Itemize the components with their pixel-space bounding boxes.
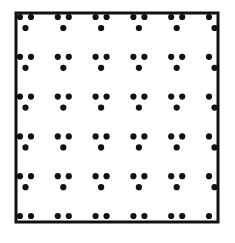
dot-icon (28, 173, 34, 179)
dot-icon (168, 173, 174, 179)
dot-icon (130, 133, 136, 139)
dot-icon (130, 54, 136, 60)
dot-icon (28, 54, 34, 60)
dot-icon (60, 105, 66, 111)
dot-icon (60, 25, 66, 31)
dot-icon (66, 133, 72, 139)
dot-icon (17, 213, 23, 219)
dot-icon (179, 54, 185, 60)
dot-icon (28, 94, 34, 100)
dot-icon (60, 184, 66, 190)
dot-icon (130, 94, 136, 100)
dot-icon (104, 94, 110, 100)
dot-icon (179, 213, 185, 219)
dot-icon (206, 133, 212, 139)
dot-icon (98, 25, 104, 31)
dot-icon (22, 144, 28, 150)
dot-icon (141, 173, 147, 179)
dot-icon (93, 14, 99, 20)
dot-icon (141, 94, 147, 100)
dot-icon (174, 184, 180, 190)
dot-icon (174, 105, 180, 111)
dot-icon (141, 133, 147, 139)
dot-icon (206, 54, 212, 60)
dot-icon (66, 14, 72, 20)
dot-icon (66, 54, 72, 60)
dot-icon (141, 14, 147, 20)
dot-icon (98, 144, 104, 150)
dot-icon (130, 173, 136, 179)
dot-icon (104, 133, 110, 139)
dot-icon (141, 54, 147, 60)
dot-icon (174, 144, 180, 150)
dot-icon (60, 65, 66, 71)
dot-icon (22, 184, 28, 190)
dot-icon (206, 173, 212, 179)
dot-icon (28, 133, 34, 139)
dot-icon (206, 14, 212, 20)
dot-icon (130, 14, 136, 20)
dot-icon (22, 65, 28, 71)
dot-icon (93, 173, 99, 179)
dot-icon (17, 173, 23, 179)
dot-icon (136, 65, 142, 71)
dot-icon (55, 14, 61, 20)
dot-icon (17, 14, 23, 20)
dot-icon (179, 94, 185, 100)
dot-icon (136, 144, 142, 150)
dot-icon (55, 94, 61, 100)
dot-icon (28, 213, 34, 219)
dot-icon (22, 105, 28, 111)
dot-icon (168, 14, 174, 20)
dot-icon (55, 133, 61, 139)
dot-icon (28, 14, 34, 20)
dot-icon (66, 213, 72, 219)
dot-icon (206, 94, 212, 100)
background (0, 0, 235, 243)
dot-icon (179, 133, 185, 139)
dot-icon (136, 184, 142, 190)
dot-icon (22, 25, 28, 31)
dot-icon (98, 65, 104, 71)
dot-icon (55, 213, 61, 219)
dot-icon (168, 133, 174, 139)
dot-icon (93, 213, 99, 219)
dot-icon (17, 94, 23, 100)
dot-icon (55, 173, 61, 179)
dot-icon (55, 54, 61, 60)
dot-icon (104, 173, 110, 179)
dot-icon (104, 14, 110, 20)
dot-icon (168, 54, 174, 60)
dot-icon (93, 54, 99, 60)
dot-icon (17, 133, 23, 139)
dot-icon (98, 184, 104, 190)
dot-icon (179, 173, 185, 179)
dot-icon (93, 94, 99, 100)
dot-icon (136, 25, 142, 31)
dot-icon (104, 213, 110, 219)
dot-icon (93, 133, 99, 139)
dot-icon (168, 213, 174, 219)
dot-icon (60, 144, 66, 150)
dot-icon (98, 105, 104, 111)
dot-icon (136, 105, 142, 111)
dot-icon (168, 94, 174, 100)
dot-icon (141, 213, 147, 219)
dot-icon (206, 213, 212, 219)
dot-icon (174, 25, 180, 31)
dot-icon (174, 65, 180, 71)
dot-icon (179, 14, 185, 20)
dot-icon (66, 173, 72, 179)
lattice-diagram (0, 0, 235, 243)
dot-icon (130, 213, 136, 219)
dot-icon (66, 94, 72, 100)
dot-icon (17, 54, 23, 60)
dot-icon (104, 54, 110, 60)
